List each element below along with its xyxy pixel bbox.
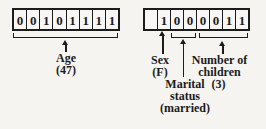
bit-cell: 0 [14, 10, 26, 29]
arrow-shaft [162, 34, 163, 54]
bit-cell: 1 [79, 10, 92, 29]
age-bracket [13, 33, 118, 38]
sex-label-block: Sex (F) [151, 54, 169, 78]
children-label-block: Number of children [192, 54, 247, 78]
marital-status-label-block: Marital status (married) [160, 78, 210, 114]
bit-cell: 1 [39, 10, 52, 29]
bit-cell: 1 [92, 10, 105, 29]
bit-cell: 1 [66, 10, 79, 29]
bit-cell: 0 [183, 10, 196, 29]
sex-arrow-icon [159, 31, 168, 54]
bit-cell: 0 [170, 10, 183, 29]
bit-cell: 0 [209, 10, 222, 29]
bit-cell: 0 [196, 10, 209, 29]
packed-bitfield: 1 0 0 0 0 1 1 [143, 8, 250, 31]
bit-cell: 1 [105, 10, 118, 29]
bit-cell: 1 [222, 10, 235, 29]
children-value: (3) [212, 78, 226, 90]
age-bitfield: 0 0 1 0 1 1 1 1 [12, 8, 120, 31]
marital-value: (married) [160, 102, 210, 114]
bit-field-figure: 0 0 1 0 1 1 1 1 1 0 0 0 0 1 1 Age [0, 0, 266, 129]
arrow-shaft [183, 42, 184, 77]
bit-cell: 1 [157, 10, 170, 29]
age-label-block: Age (47) [56, 52, 76, 76]
bit-cell: 0 [52, 10, 65, 29]
marital-status-arrow-icon [179, 39, 188, 77]
children-bracket [199, 33, 248, 38]
bit-cell: 0 [26, 10, 39, 29]
bit-cell: 1 [235, 10, 248, 29]
age-value: (47) [56, 64, 76, 76]
marital-status-bracket [171, 33, 196, 38]
bit-cell-unused [145, 10, 157, 29]
